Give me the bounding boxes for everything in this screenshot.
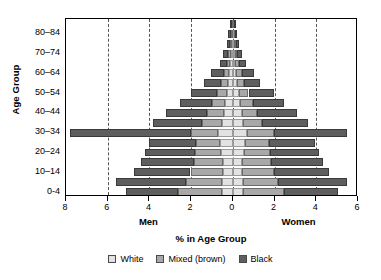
bar-segment <box>233 139 246 147</box>
bar-row <box>66 129 356 137</box>
x-axis-tick-label: 6 <box>342 202 372 213</box>
y-axis-tick-label: 60–64 <box>12 68 60 77</box>
bar-segment <box>233 109 242 117</box>
bar-segment <box>195 149 221 157</box>
bar-segment <box>271 158 323 166</box>
bar-segment <box>134 168 190 176</box>
bar-segment <box>166 109 208 117</box>
bar-row <box>66 139 356 147</box>
bar-segment <box>225 99 233 107</box>
bar-segment <box>223 158 233 166</box>
population-pyramid-chart: Age Group 80–8470–7460–6450–5440–4430–34… <box>0 0 381 280</box>
bar-segment <box>242 158 271 166</box>
legend-label: Mixed (brown) <box>168 254 225 264</box>
x-axis-tick <box>274 196 275 201</box>
x-axis-tick-label: 2 <box>259 202 289 213</box>
x-axis-tick-label: 6 <box>92 202 122 213</box>
legend-swatch-white <box>108 255 116 263</box>
bar-segment <box>233 188 243 196</box>
bar-segment <box>237 79 244 87</box>
bar-segment <box>270 149 319 157</box>
bar-row <box>66 60 356 68</box>
bar-segment <box>233 149 244 157</box>
bar-segment <box>212 99 225 107</box>
bar-row <box>66 168 356 176</box>
bar-segment <box>242 69 254 77</box>
bar-segment <box>243 119 262 127</box>
x-axis-tick <box>357 196 358 201</box>
bar-segment <box>222 188 233 196</box>
x-axis-tick-label: 2 <box>175 202 205 213</box>
bar-segment <box>240 99 253 107</box>
legend-swatch-black <box>239 255 247 263</box>
x-axis-tick-label: 4 <box>133 202 163 213</box>
bar-segment <box>247 129 274 137</box>
bar-segment <box>191 129 218 137</box>
bar-segment <box>186 178 223 186</box>
bar-segment <box>274 168 329 176</box>
y-axis-tick-label: 10–14 <box>12 167 60 176</box>
bar-segment <box>237 50 242 58</box>
x-axis-tick-labels: 86420246 <box>65 202 357 214</box>
bar-segment <box>222 119 233 127</box>
bar-segment <box>178 188 222 196</box>
bar-segment <box>242 168 273 176</box>
bar-segment <box>218 129 233 137</box>
y-axis-tick-label: 40–44 <box>12 107 60 116</box>
bar-segment <box>223 168 233 176</box>
bar-row <box>66 40 356 48</box>
x-axis-tick-label: 0 <box>217 202 247 213</box>
bar-segment <box>245 139 268 147</box>
bar-segment <box>284 188 338 196</box>
bar-segment <box>191 89 217 97</box>
bar-segment <box>233 99 240 107</box>
axis-side-label-men: Men <box>118 216 178 227</box>
bar-segment <box>233 119 243 127</box>
bar-segment <box>126 188 178 196</box>
bar-row <box>66 149 356 157</box>
bar-segment <box>244 79 260 87</box>
bar-segment <box>220 139 233 147</box>
bar-segment <box>202 119 222 127</box>
bar-segment <box>242 109 258 117</box>
bar-segment <box>194 158 223 166</box>
bar-row <box>66 30 356 38</box>
bar-segment <box>230 40 232 48</box>
y-axis-tick-label: 0-4 <box>12 187 60 196</box>
bar-segment <box>228 30 231 38</box>
bar-row <box>66 119 356 127</box>
y-axis-tick-label: 80–84 <box>12 28 60 37</box>
bars-layer <box>66 19 356 195</box>
bar-segment <box>228 50 231 58</box>
bar-segment <box>224 69 229 77</box>
x-axis-tick <box>232 196 233 201</box>
bar-segment <box>221 149 232 157</box>
bar-segment <box>233 158 242 166</box>
bar-segment <box>227 40 230 48</box>
y-axis-tick-labels: 80–8470–7460–6450–5440–4430–3420–2410–14… <box>12 18 60 196</box>
legend-swatch-mixed <box>156 255 164 263</box>
bar-segment <box>235 30 238 38</box>
bar-row <box>66 50 356 58</box>
bar-segment <box>153 119 202 127</box>
legend-label: White <box>120 254 143 264</box>
bar-row <box>66 99 356 107</box>
x-axis-tick <box>315 196 316 201</box>
bar-segment <box>204 79 221 87</box>
bar-segment <box>253 99 284 107</box>
x-axis-tick <box>65 196 66 201</box>
chart-legend: WhiteMixed (brown)Black <box>0 254 381 264</box>
y-axis-tick-label: 20–24 <box>12 147 60 156</box>
bar-segment <box>236 40 239 48</box>
bar-row <box>66 178 356 186</box>
plot-area <box>65 18 357 196</box>
bar-segment <box>243 188 284 196</box>
bar-segment <box>191 168 223 176</box>
bar-segment <box>234 20 236 28</box>
bar-segment <box>116 178 186 186</box>
bar-segment <box>196 139 220 147</box>
bar-segment <box>227 60 230 68</box>
bar-segment <box>278 178 347 186</box>
y-axis-tick-label: 30–34 <box>12 127 60 136</box>
x-axis-tick <box>107 196 108 201</box>
